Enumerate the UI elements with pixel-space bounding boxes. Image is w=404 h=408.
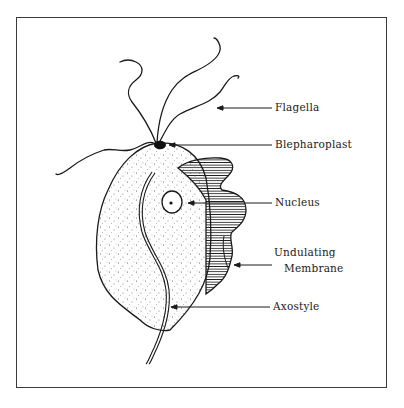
trichomonas-diagram (0, 0, 404, 408)
label-axostyle: Axostyle (273, 300, 320, 313)
label-undulating: Undulating (274, 246, 336, 259)
label-flagella: Flagella (275, 101, 319, 114)
nucleolus (169, 201, 172, 204)
label-membrane: Membrane (284, 262, 344, 275)
label-nucleus: Nucleus (275, 196, 320, 209)
cell-body (96, 143, 210, 331)
label-blepharoplast: Blepharoplast (275, 138, 352, 151)
blepharoplast (154, 141, 166, 149)
